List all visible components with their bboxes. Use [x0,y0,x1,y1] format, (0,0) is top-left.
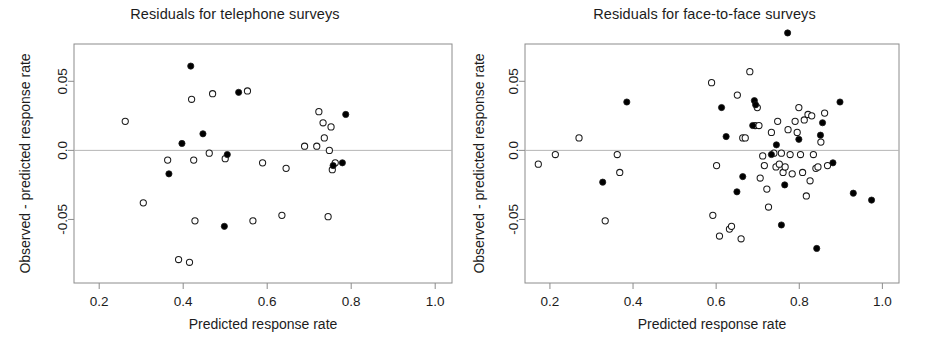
data-point-filled [224,151,230,157]
data-point-open [175,256,181,262]
figure-container: Residuals for telephone surveys 0.20.40.… [0,0,939,339]
data-point-open [576,135,582,141]
data-point-open [206,150,212,156]
y-axis-tick-label: 0.0 [506,141,521,160]
data-point-filled [740,174,746,180]
data-point-filled [753,102,759,108]
data-point-open [535,161,541,167]
data-point-filled [817,132,823,138]
series-filled-points [600,30,875,252]
data-point-filled [723,133,729,139]
x-axis-tick-label: 0.4 [174,294,193,309]
scatter-plot-telephone: 0.20.40.60.81.0-0.050.00.05Predicted res… [0,0,470,339]
data-point-filled [718,104,724,110]
data-point-open [756,122,762,128]
data-point-open [192,218,198,224]
data-point-open [760,153,766,159]
panel-face-to-face-surveys: Residuals for face-to-face surveys 0.20.… [470,0,939,339]
data-point-open [602,218,608,224]
data-point-filled [188,63,194,69]
x-axis-title: Predicted response rate [638,316,787,332]
data-point-open [797,151,803,157]
data-point-open [757,175,763,181]
data-point-open [614,151,620,157]
x-axis-tick-label: 0.6 [707,294,726,309]
data-point-open [321,135,327,141]
data-point-open [191,157,197,163]
data-point-open [792,118,798,124]
x-axis-tick-label: 1.0 [426,294,445,309]
data-point-open [301,143,307,149]
data-point-open [761,162,767,168]
data-point-open [810,151,816,157]
data-point-filled [200,131,206,137]
data-point-filled [768,151,774,157]
data-point-open [768,129,774,135]
data-point-open [799,169,805,175]
data-point-filled [796,136,802,142]
data-point-open [803,193,809,199]
data-point-open [316,109,322,115]
data-point-open [765,204,771,210]
data-point-filled [814,245,820,251]
data-point-open [728,223,734,229]
data-point-open [279,212,285,218]
series-open-points [535,69,830,242]
data-point-open [809,113,815,119]
data-point-open [326,147,332,153]
data-point-filled [343,111,349,117]
data-point-open [713,162,719,168]
data-point-open [314,143,320,149]
data-point-open [801,117,807,123]
series-open-points [122,88,338,266]
data-point-open [822,110,828,116]
data-point-filled [236,89,242,95]
data-point-filled [330,162,336,168]
x-axis-tick-label: 0.8 [790,294,809,309]
data-point-open [764,186,770,192]
y-axis-tick-label: 0.0 [55,141,70,160]
data-point-open [742,135,748,141]
x-axis-tick-label: 1.0 [873,294,892,309]
data-point-open [747,69,753,75]
scatter-plot-face-to-face: 0.20.40.60.81.0-0.050.00.05Predicted res… [470,0,939,339]
data-point-open [789,171,795,177]
data-point-open [259,160,265,166]
data-point-open [787,151,793,157]
data-point-open [734,92,740,98]
y-axis-tick-label: -0.05 [55,204,70,235]
x-axis-title: Predicted response rate [189,316,338,332]
data-point-open [617,169,623,175]
y-axis-tick-label: 0.05 [55,68,70,94]
data-point-open [776,161,782,167]
y-axis-tick-label: -0.05 [506,204,521,235]
data-point-open [807,178,813,184]
data-point-filled [778,222,784,228]
data-point-open [244,88,250,94]
x-axis-tick-label: 0.4 [624,294,643,309]
data-point-open [325,214,331,220]
data-point-open [716,233,722,239]
data-point-open [165,157,171,163]
data-point-open [140,200,146,206]
data-point-open [815,164,821,170]
data-point-filled [837,99,843,105]
data-point-filled [868,197,874,203]
series-filled-points [166,63,349,229]
data-point-open [189,96,195,102]
data-point-open [283,165,289,171]
data-point-filled [819,120,825,126]
data-point-open [552,151,558,157]
data-point-open [250,218,256,224]
data-point-filled [600,179,606,185]
data-point-open [186,259,192,265]
data-point-open [328,124,334,130]
data-point-filled [179,140,185,146]
data-point-filled [785,30,791,36]
data-point-filled [850,190,856,196]
data-point-open [710,212,716,218]
data-point-filled [782,182,788,188]
data-point-filled [166,171,172,177]
x-axis-tick-label: 0.6 [258,294,277,309]
data-point-filled [624,99,630,105]
